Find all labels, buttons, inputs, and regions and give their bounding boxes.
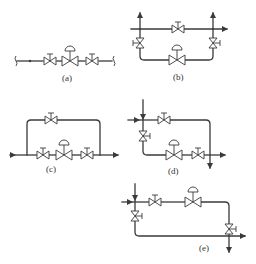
panel-label-d: (d): [168, 166, 179, 176]
panel-a: (a): [15, 46, 115, 83]
manual-valve-icon: [139, 131, 150, 141]
panel-c: (c): [10, 113, 118, 174]
control-valve-icon: [166, 140, 182, 160]
manual-valve-icon: [133, 38, 144, 48]
manual-valve-icon: [44, 54, 56, 65]
control-valve-icon: [169, 45, 185, 65]
panel-label-a: (a): [62, 73, 72, 83]
manual-valve-icon: [86, 54, 98, 65]
panel-e: (e): [122, 184, 245, 253]
manual-valve-icon: [225, 224, 236, 234]
panel-label-e: (e): [199, 243, 209, 253]
manual-valve-icon: [81, 148, 93, 159]
pipe-break-icon: [113, 56, 115, 66]
manual-valve-icon: [149, 195, 161, 206]
bypass-manual-valve-icon: [45, 113, 57, 124]
panel-b: (b): [131, 13, 227, 82]
control-valve-icon: [56, 140, 72, 160]
manual-valve-icon: [131, 211, 142, 221]
panel-label-b: (b): [173, 72, 184, 82]
manual-valve-icon: [172, 22, 184, 33]
piping-diagram: (a) (b): [0, 0, 256, 264]
manual-valve-icon: [37, 148, 49, 159]
panel-d: (d): [128, 100, 225, 176]
manual-valve-icon: [192, 148, 204, 159]
manual-valve-icon: [209, 38, 220, 48]
manual-valve-icon: [158, 113, 170, 124]
control-valve-icon: [185, 187, 201, 207]
control-valve-icon: [62, 46, 78, 66]
panel-label-c: (c): [46, 164, 56, 174]
